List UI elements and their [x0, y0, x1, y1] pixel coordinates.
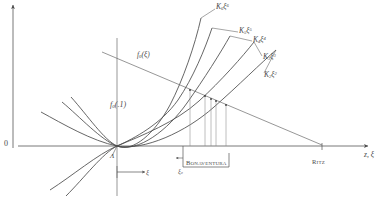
xi-arrow-label: ξ [146, 168, 149, 176]
curve-label-k2: K2ξ2 [264, 70, 277, 79]
xi-direction-arrow [117, 166, 145, 178]
origin-point-label: Λ [110, 152, 114, 160]
ritz-label: Ritz [312, 158, 325, 165]
curve-label-k3: K3ξ3 [263, 52, 276, 61]
curve-label-k4: K4ξ4 [253, 35, 266, 44]
curve-label-k5: K5ξ5 [239, 26, 252, 35]
figure-canvas: 0 K6ξ6 K5ξ5 K4ξ4 K3ξ3 K2ξ2 f0(ξ) f0(.1) … [0, 0, 385, 201]
curve-k3 [50, 42, 254, 190]
bonaventura-label: Bonaventura [186, 159, 227, 166]
diagram-svg [0, 0, 385, 201]
x-axis-label: z, ξ [364, 150, 374, 159]
intersection-droplines [190, 90, 226, 146]
f0-xi-label: f0(ξ) [137, 50, 150, 59]
f0-one-label: f0(.1) [110, 100, 126, 109]
origin-zero-label: 0 [4, 139, 8, 148]
curve-k2 [41, 50, 276, 147]
xi-zero-label: ξ₀ [178, 167, 183, 174]
curve-label-k6: K6ξ6 [216, 2, 229, 11]
